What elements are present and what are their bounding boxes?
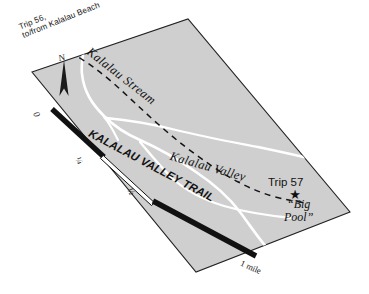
kalalau-valley-trail-map: ★ Trip 56, to/from Kalalau Beach Kalalau… (0, 0, 369, 294)
map-panel (32, 19, 350, 272)
north-label: N (58, 53, 66, 63)
big-pool-label: “Big Pool” (284, 198, 313, 223)
big-pool-line-2: Pool” (284, 211, 313, 224)
big-pool-line-1: “Big (287, 197, 310, 211)
kalalau-stream-label: Kalalau Stream (88, 44, 172, 57)
map-canvas: ★ (0, 0, 369, 294)
trip-57-label: Trip 57 (268, 176, 303, 188)
